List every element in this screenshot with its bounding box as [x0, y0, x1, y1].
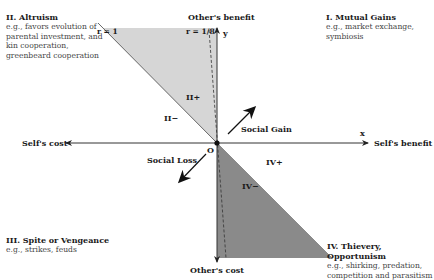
- x-axis-negative-label: Self's cost: [22, 138, 68, 148]
- quadrant-ii-label: II. Altruism e.g., favors evolution of p…: [6, 12, 103, 60]
- y-axis-positive-label: Other's benefit: [188, 12, 255, 22]
- quadrant-ii-desc-line: greenbeard cooperation: [6, 51, 103, 61]
- quadrant-ii-title: II. Altruism: [6, 12, 103, 22]
- quadrant-iii-title: III. Spite or Vengeance: [6, 235, 109, 245]
- social-loss-label: Social Loss: [147, 155, 197, 165]
- y-symbol: y: [223, 28, 228, 38]
- quadrant-iv-label: IV. Thievery, Opportunism e.g., shirking…: [327, 241, 434, 280]
- origin-label: O: [207, 145, 214, 155]
- quadrant-iv-desc-line: e.g., shirking, predation,: [327, 261, 434, 271]
- quadrant-i-desc-line: e.g., market exchange,: [326, 22, 414, 32]
- region-ii-minus-label: II−: [164, 113, 178, 123]
- quadrant-iv-title: IV. Thievery, Opportunism: [327, 241, 434, 261]
- region-ii-plus-label: II+: [186, 92, 200, 102]
- y-axis-negative-label: Other's cost: [190, 265, 244, 275]
- r-one-eighth-label: r = 1/8: [186, 27, 215, 37]
- x-axis-positive-label: Self's benefit: [374, 138, 432, 148]
- quadrant-ii-desc-line: parental investment, and: [6, 32, 103, 42]
- social-gain-label: Social Gain: [241, 124, 292, 134]
- x-symbol: x: [360, 128, 365, 138]
- quadrant-iii-desc-line: e.g., strikes, feuds: [6, 245, 109, 255]
- r1-label: r = 1: [97, 27, 118, 37]
- region-iv-plus-label: IV+: [266, 157, 283, 167]
- quadrant-i-label: I. Mutual Gains e.g., market exchange, s…: [326, 12, 414, 41]
- region-iv-minus-label: IV−: [242, 181, 259, 191]
- quadrant-iii-label: III. Spite or Vengeance e.g., strikes, f…: [6, 235, 109, 255]
- quadrant-ii-desc-line: e.g., favors evolution of: [6, 22, 103, 32]
- origin-dot: [214, 140, 219, 145]
- quadrant-i-title: I. Mutual Gains: [326, 12, 414, 22]
- quadrant-i-desc-line: symbiosis: [326, 32, 414, 42]
- quadrant-ii-desc-line: kin cooperation,: [6, 41, 103, 51]
- quadrant-iv-desc-line: competition and parasitism: [327, 271, 434, 280]
